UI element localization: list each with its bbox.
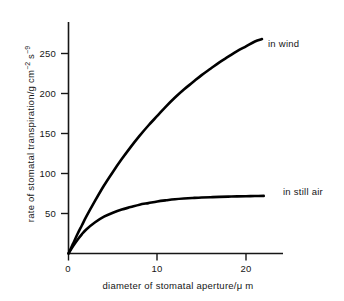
series-label-in-still-air: in still air [283,186,323,197]
y-axis-title-exponent-1: −2 [24,62,31,70]
y-axis-title-mid: s [25,54,36,62]
x-tick-label-0: 0 [56,263,80,274]
chart-figure: 250 200 150 100 50 0 10 20 in wind in st… [0,0,344,301]
y-axis-title-exponent-2: −9 [24,46,31,54]
x-axis-title-text: diameter of stomatal aperture/μ m [102,280,253,291]
curve-in-still-air [69,196,264,254]
y-axis-title: rate of stomatal transpiration/g cm−2 s−… [24,19,36,249]
x-tick-label-10: 10 [145,263,169,274]
y-axis-ticks [61,54,68,214]
x-axis-ticks [69,254,247,261]
series-label-in-wind: in wind [268,38,299,49]
x-axis-title: diameter of stomatal aperture/μ m [58,280,298,291]
x-tick-label-20: 20 [234,263,258,274]
y-axis-title-main: rate of stomatal transpiration/g cm [25,70,36,222]
